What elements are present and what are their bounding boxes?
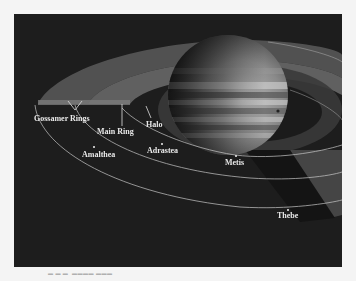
label-adrastea: Adrastea bbox=[147, 146, 178, 155]
label-metis: Metis bbox=[225, 158, 244, 167]
halo-leader bbox=[146, 106, 151, 118]
diagram-panel: Gossamer Rings Main Ring Halo Amalthea A… bbox=[14, 14, 342, 267]
figure-caption: ▬ ▬ ▬ ▬▬▬▬ ▬▬▬ bbox=[48, 270, 112, 276]
label-thebe: Thebe bbox=[277, 211, 299, 220]
metis-marker bbox=[235, 155, 237, 157]
amalthea-marker bbox=[93, 146, 95, 148]
jupiter-ring-diagram: Gossamer Rings Main Ring Halo Amalthea A… bbox=[14, 14, 342, 267]
adrastea-marker bbox=[161, 143, 163, 145]
label-halo: Halo bbox=[146, 120, 162, 129]
label-gossamer-rings: Gossamer Rings bbox=[34, 114, 90, 123]
label-main-ring: Main Ring bbox=[97, 127, 134, 136]
label-amalthea: Amalthea bbox=[82, 150, 115, 159]
